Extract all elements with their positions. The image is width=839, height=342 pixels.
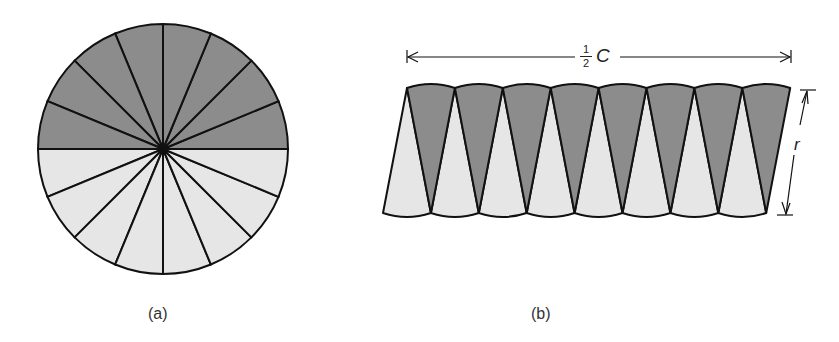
rearranged-wedges (383, 84, 790, 217)
circle-diagram (0, 0, 839, 342)
caption-b: (b) (531, 305, 551, 323)
circumference-label: C (596, 45, 610, 67)
sectored-circle (38, 24, 288, 274)
caption-a: (a) (148, 305, 168, 323)
fraction-denominator: 2 (580, 58, 592, 69)
half-fraction: 1 2 (580, 44, 592, 69)
fraction-numerator: 1 (580, 44, 592, 55)
radius-label: r (793, 135, 801, 155)
